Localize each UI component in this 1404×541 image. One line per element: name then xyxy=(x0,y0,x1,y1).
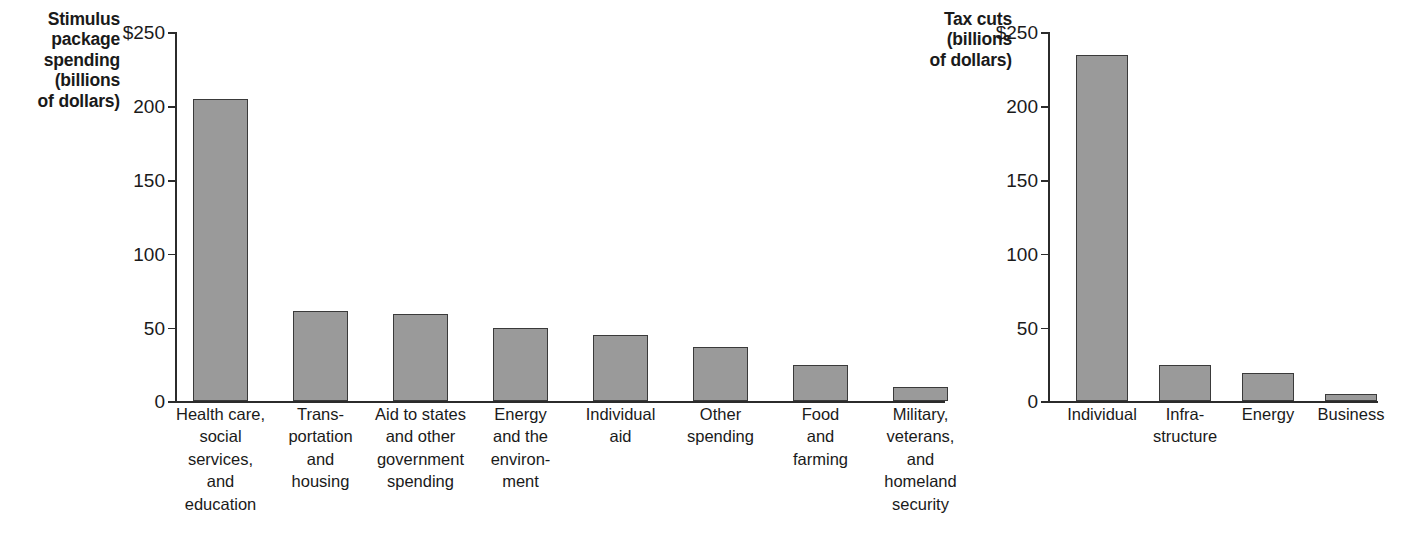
tick-mark xyxy=(1041,254,1048,256)
bar xyxy=(1076,55,1128,402)
stimulus-spending-chart: Stimulus package spending (billions of d… xyxy=(0,0,960,541)
bar-slot xyxy=(1325,32,1377,401)
category-labels: Health care, social services, and educat… xyxy=(175,403,945,541)
category-label: Business xyxy=(1311,403,1391,425)
stimulus-plot-area: 050100150200$250 xyxy=(175,32,945,403)
y-tick-label: 150 xyxy=(1006,171,1038,190)
tick-mark xyxy=(168,32,175,34)
bar-slot xyxy=(493,32,548,401)
y-tick-label: 200 xyxy=(1006,97,1038,116)
y-tick-label: 100 xyxy=(133,244,165,263)
y-tick-label: $250 xyxy=(996,23,1038,42)
category-label: Health care, social services, and educat… xyxy=(171,403,270,515)
bar xyxy=(593,335,648,401)
bar xyxy=(393,314,448,401)
bar-slot xyxy=(593,32,648,401)
category-label: Other spending xyxy=(671,403,770,448)
tax-cuts-plot-area: 050100150200$250 xyxy=(1048,32,1378,403)
tick-mark xyxy=(168,106,175,108)
bar xyxy=(1159,365,1211,402)
category-label: Energy and the environ- ment xyxy=(471,403,570,493)
y-tick-label: 100 xyxy=(1006,244,1038,263)
bar xyxy=(493,328,548,402)
bar xyxy=(793,365,848,402)
y-tick-label: 0 xyxy=(1027,392,1038,411)
bar-slot xyxy=(393,32,448,401)
y-tick-label: 150 xyxy=(133,171,165,190)
y-tick-label: 50 xyxy=(1017,318,1038,337)
tax-cuts-title: Tax cuts (billions of dollars) xyxy=(872,9,1012,70)
y-tick-label: $250 xyxy=(123,23,165,42)
tick-mark xyxy=(168,254,175,256)
tick-mark xyxy=(1041,328,1048,330)
bar-slot xyxy=(293,32,348,401)
category-label: Energy xyxy=(1228,403,1308,425)
bar-slot xyxy=(193,32,248,401)
category-label: Infra- structure xyxy=(1145,403,1225,448)
tick-mark xyxy=(1041,401,1048,403)
category-labels: IndividualInfra- structureEnergyBusiness xyxy=(1048,403,1378,541)
tick-mark xyxy=(168,180,175,182)
stimulus-spending-title: Stimulus package spending (billions of d… xyxy=(0,9,120,111)
bar-slot xyxy=(793,32,848,401)
tick-mark xyxy=(168,328,175,330)
category-label: Food and farming xyxy=(771,403,870,470)
bar-slot xyxy=(1076,32,1128,401)
y-tick-label: 50 xyxy=(144,318,165,337)
bar xyxy=(693,347,748,402)
tick-mark xyxy=(1041,180,1048,182)
tick-mark xyxy=(1041,106,1048,108)
bar-slot xyxy=(1159,32,1211,401)
category-label: Aid to states and other government spend… xyxy=(371,403,470,493)
bar-slot xyxy=(693,32,748,401)
tax-cuts-chart: Tax cuts (billions of dollars) 050100150… xyxy=(872,0,1404,541)
bar xyxy=(193,99,248,402)
y-tick-label: 0 xyxy=(154,392,165,411)
category-label: Individual aid xyxy=(571,403,670,448)
bar-group xyxy=(175,32,945,401)
category-label: Individual xyxy=(1062,403,1142,425)
bar xyxy=(1242,373,1294,401)
bar-slot xyxy=(1242,32,1294,401)
y-tick-label: 200 xyxy=(133,97,165,116)
tick-mark xyxy=(1041,32,1048,34)
bar xyxy=(293,311,348,401)
bar-group xyxy=(1048,32,1378,401)
category-label: Trans- portation and housing xyxy=(271,403,370,493)
bar xyxy=(1325,394,1377,401)
